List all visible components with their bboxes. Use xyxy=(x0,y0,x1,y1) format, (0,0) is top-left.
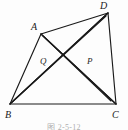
figure-container: A B C D Q P 图 2-5-12 xyxy=(0,0,128,130)
vertex-label-D: D xyxy=(100,1,107,11)
segment-C-D xyxy=(108,13,116,104)
point-label-Q: Q xyxy=(40,57,47,66)
segments-group xyxy=(10,13,116,104)
segment-A-B xyxy=(10,34,41,104)
geometry-diagram xyxy=(0,0,128,130)
segment-C-Q-A xyxy=(43,36,116,104)
figure-caption: 图 2-5-12 xyxy=(0,123,128,130)
vertex-label-A: A xyxy=(31,22,37,32)
vertex-label-B: B xyxy=(5,110,11,120)
vertex-label-C: C xyxy=(112,110,119,120)
point-label-P: P xyxy=(87,57,93,66)
